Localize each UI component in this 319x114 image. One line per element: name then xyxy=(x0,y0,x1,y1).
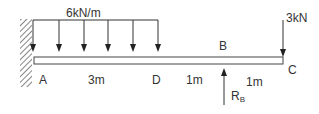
point-load-arrow xyxy=(280,20,286,57)
reaction-arrow xyxy=(221,68,227,105)
distributed-load-label: 6kN/m xyxy=(66,6,101,20)
point-label-a: A xyxy=(39,73,47,87)
reaction-label-sub: B xyxy=(240,95,245,104)
beam-diagram: 6kN/m 3kN A 3m D B 1m 1m C RB xyxy=(0,0,319,114)
beam xyxy=(34,57,283,64)
fixed-support-wall xyxy=(20,19,32,87)
reaction-label-main: R xyxy=(231,89,240,103)
point-load-label: 3kN xyxy=(286,11,307,25)
dimension-ad: 3m xyxy=(88,73,105,87)
distributed-load xyxy=(30,20,161,52)
dimension-db: 1m xyxy=(186,73,203,87)
point-label-d: D xyxy=(152,73,161,87)
reaction-label: RB xyxy=(231,89,245,104)
dimension-bc: 1m xyxy=(246,75,263,89)
load-arrows xyxy=(30,20,161,52)
point-label-c: C xyxy=(288,63,297,77)
point-label-b: B xyxy=(219,39,227,53)
